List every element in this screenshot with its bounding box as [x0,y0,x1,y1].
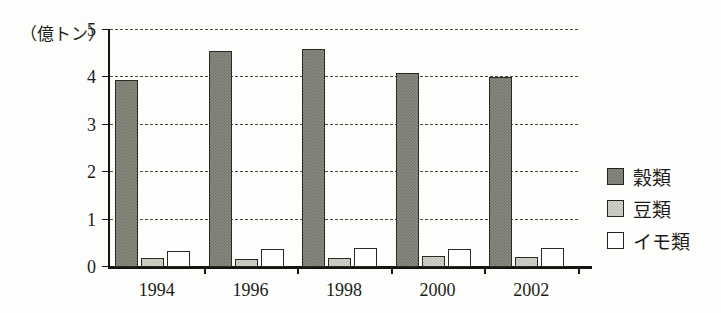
x-axis-label-2000: 2000 [391,280,485,301]
y-tick-label-2: 2 [74,163,96,181]
y-tick-label-0: 0 [74,258,96,276]
legend: 穀類豆類イモ類 [607,160,690,256]
bar-1994-potato [167,251,190,267]
bar-2002-potato [541,248,564,267]
x-axis-label-2002: 2002 [484,280,578,301]
legend-item-potato: イモ類 [607,224,690,256]
bar-2000-grain [396,73,419,267]
bar-1998-grain [302,49,325,267]
bar-1996-potato [261,249,284,267]
x-tick-mark-1996 [204,267,206,274]
y-tick-mark-2 [102,171,109,172]
bar-1998-bean [328,258,351,267]
y-tick-mark-5 [102,29,109,30]
x-tick-mark-1998 [297,267,299,274]
legend-swatch-potato-icon [607,232,624,249]
y-tick-mark-0 [102,266,109,267]
x-axis-label-1994: 1994 [110,280,204,301]
bar-group-2000: 2000 [391,30,485,267]
x-axis-label-1998: 1998 [297,280,391,301]
legend-label-grain: 穀類 [633,163,671,190]
bar-chart-figure: （億トン） 012345 19941996199820002002 穀類豆類イモ… [0,0,721,313]
bar-group-1996: 1996 [204,30,298,267]
y-tick-mark-1 [102,219,109,220]
bar-2002-grain [489,77,512,267]
y-tick-label-5: 5 [74,21,96,39]
bar-1996-bean [235,259,258,267]
bar-group-1994: 1994 [110,30,204,267]
legend-item-grain: 穀類 [607,160,690,192]
legend-swatch-grain-icon [607,168,624,185]
y-tick-mark-4 [102,76,109,77]
y-tick-mark-3 [102,124,109,125]
bar-2000-potato [448,249,471,267]
bar-1996-grain [209,51,232,267]
legend-label-potato: イモ類 [633,227,690,254]
bar-group-1998: 1998 [297,30,391,267]
plot-area: 012345 19941996199820002002 [110,30,578,267]
legend-label-bean: 豆類 [633,195,671,222]
bar-1994-bean [141,258,164,267]
y-tick-label-1: 1 [74,211,96,229]
bar-2000-bean [422,256,445,267]
x-tick-mark-2000 [391,267,393,274]
y-tick-label-4: 4 [74,68,96,86]
bar-group-2002: 2002 [484,30,578,267]
x-tick-mark-end [578,267,580,274]
bar-1994-grain [115,80,138,267]
legend-swatch-bean-icon [607,200,624,217]
bar-2002-bean [515,257,538,267]
y-tick-label-3: 3 [74,116,96,134]
x-axis-label-1996: 1996 [204,280,298,301]
x-tick-mark-2002 [484,267,486,274]
legend-item-bean: 豆類 [607,192,690,224]
bar-1998-potato [354,248,377,267]
